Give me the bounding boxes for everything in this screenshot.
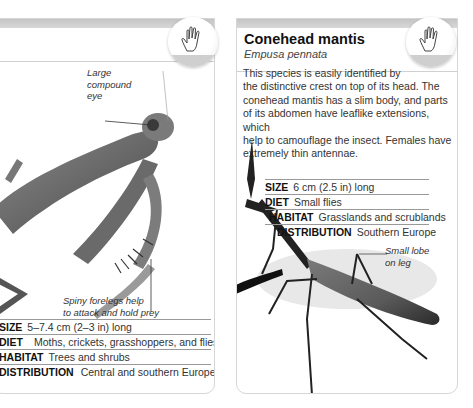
fact-habitat: HABITATTrees and shrubs <box>0 349 211 364</box>
card-title: Conehead mantis <box>244 31 365 47</box>
fact-distribution: DISTRIBUTIONSouthern Europe <box>265 224 429 239</box>
hand-icon <box>416 23 448 55</box>
callout-compound-eye: Large compound eye <box>87 67 131 102</box>
praying-mantis-card: Large compound eye Spiny forelegs help t… <box>0 18 215 394</box>
scientific-name: Empusa pennata <box>244 48 327 60</box>
hand-badge <box>406 17 456 67</box>
fact-diet: DIETMoths, crickets, grasshoppers, and f… <box>0 334 211 349</box>
callout-spiny-forelegs: Spiny forelegs help to attack and hold p… <box>63 295 159 318</box>
fact-distribution: DISTRIBUTIONCentral and southern Europe <box>0 364 211 379</box>
fact-size: SIZE6 cm (2.5 in) long <box>265 179 429 194</box>
conehead-mantis-card: Conehead mantis Empusa pennata This spec… <box>236 18 458 394</box>
fact-habitat: HABITATGrasslands and scrublands <box>265 209 429 224</box>
hand-badge <box>168 17 218 67</box>
fact-size: SIZE5–7.4 cm (2–3 in) long <box>0 319 211 334</box>
fact-diet: DIETSmall flies <box>265 194 429 209</box>
hand-icon <box>178 23 210 55</box>
fact-table: SIZE6 cm (2.5 in) long DIETSmall flies H… <box>265 179 429 239</box>
fact-table: SIZE5–7.4 cm (2–3 in) long DIETMoths, cr… <box>0 319 211 379</box>
callout-small-lobe: Small lobe on leg <box>385 245 429 268</box>
